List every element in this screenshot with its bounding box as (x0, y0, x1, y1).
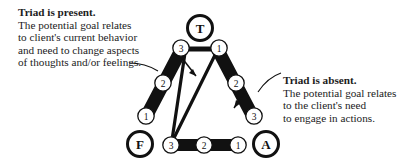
left-leg-step-2: 2 (155, 75, 171, 91)
bottom-bar-step-1-label: 1 (236, 141, 241, 151)
left-leg-step-2-label: 2 (161, 79, 166, 89)
right-leg-step-2: 2 (228, 75, 244, 91)
bottom-bar-step-1: 1 (230, 137, 246, 153)
left-leg-step-3-label: 3 (179, 44, 184, 54)
vertex-A: A (254, 132, 279, 157)
right-leg-step-3-label: 3 (252, 112, 257, 122)
left-leg-step-1: 1 (138, 108, 154, 124)
vertex-T-label: T (196, 21, 205, 36)
right-leg-step-1: 1 (211, 40, 227, 56)
leader-line-left (129, 63, 158, 71)
bottom-bar-step-3-label: 3 (169, 141, 174, 151)
bottom-bar-step-2: 2 (196, 137, 212, 153)
vertex-T: T (188, 16, 213, 41)
vertex-A-label: A (261, 137, 271, 152)
left-leg-step-3: 3 (173, 40, 189, 56)
right-leg-step-1-label: 1 (217, 44, 222, 54)
right-leg-step-2-label: 2 (234, 79, 239, 89)
figure-canvas: Triad is present. The potential goal rel… (0, 0, 405, 164)
bottom-bar-step-2-label: 2 (202, 141, 207, 151)
bottom-bar-step-3: 3 (163, 137, 179, 153)
triad-triangle-diagram: 3 2 1 1 2 3 3 2 (0, 0, 405, 164)
leader-line-right (258, 73, 281, 92)
left-leg-step-1-label: 1 (144, 112, 149, 122)
vertex-F: F (128, 132, 153, 157)
vertex-F-label: F (136, 137, 144, 152)
right-leg-step-3: 3 (246, 108, 262, 124)
